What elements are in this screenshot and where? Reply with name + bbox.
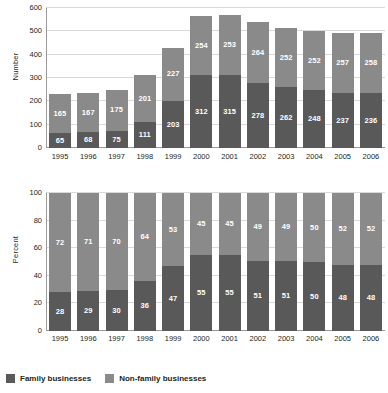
- percent-chart-segment-family: 29: [77, 291, 99, 331]
- number-chart-segment-value: 264: [251, 49, 264, 57]
- percent-chart-segment-value: 52: [338, 225, 347, 233]
- number-chart-segment-family: 236: [360, 93, 382, 148]
- percent-chart-segment-value: 51: [282, 292, 291, 300]
- number-chart-segment-family: 111: [134, 122, 156, 148]
- percent-chart-segment-value: 53: [169, 226, 178, 234]
- percent-chart-segment-nonfamily: 49: [275, 193, 297, 261]
- number-chart-segment-value: 227: [167, 70, 180, 78]
- percent-chart-segment-value: 45: [225, 220, 234, 228]
- percent-chart-segment-value: 49: [254, 223, 263, 231]
- percent-chart-bar-column: 7228: [49, 193, 71, 331]
- number-chart-x-tick-label: 2000: [190, 152, 212, 161]
- percent-chart-x-tick-label: 1995: [49, 334, 71, 343]
- number-chart-segment-nonfamily: 201: [134, 75, 156, 122]
- number-chart-y-tick-label: 100: [29, 119, 42, 128]
- legend-swatch-icon: [105, 374, 114, 383]
- percent-chart-segment-value: 29: [84, 307, 93, 315]
- number-chart-bar-column: 258236: [360, 8, 382, 148]
- number-chart-y-axis-title: Number: [2, 62, 16, 71]
- percent-chart-segment-family: 51: [247, 261, 269, 331]
- percent-chart-bar-column: 5248: [360, 193, 382, 331]
- number-chart-segment-value: 65: [56, 137, 65, 145]
- number-chart-segment-family: 75: [106, 131, 128, 149]
- number-chart-y-tick-label: 600: [29, 3, 42, 12]
- number-chart-bar-column: 16565: [49, 8, 71, 148]
- percent-chart-segment-nonfamily: 50: [303, 193, 325, 262]
- percent-chart-x-tick-label: 1998: [134, 334, 156, 343]
- number-chart-segment-value: 111: [139, 131, 151, 139]
- number-chart-segment-nonfamily: 252: [303, 31, 325, 90]
- percent-chart-segment-value: 70: [112, 238, 121, 246]
- percent-chart-segment-value: 28: [56, 308, 65, 316]
- chart-legend: Family businessesNon-family businesses: [6, 374, 206, 383]
- percent-chart-segment-value: 45: [197, 220, 206, 228]
- number-chart-segment-value: 237: [336, 117, 349, 125]
- number-chart-segment-value: 203: [167, 121, 180, 129]
- percent-chart-y-tick-label: 100: [29, 188, 42, 197]
- percent-chart-panel: Percent 020406080100 7228712970306436534…: [0, 185, 388, 360]
- number-chart-segment-value: 167: [82, 109, 95, 117]
- number-chart-x-tick-label: 1999: [162, 152, 184, 161]
- percent-chart-x-axis: 1995199619971998199920002001200220032004…: [46, 334, 385, 343]
- percent-chart-segment-family: 51: [275, 261, 297, 331]
- percent-chart-bar-column: 7030: [106, 193, 128, 331]
- percent-chart-segment-value: 71: [84, 238, 93, 246]
- number-chart-y-tick-label: 300: [29, 73, 42, 82]
- percent-chart-segment-nonfamily: 71: [77, 193, 99, 291]
- percent-chart-plot-area: 020406080100 722871297030643653474555455…: [46, 193, 385, 331]
- percent-chart-segment-family: 55: [219, 255, 241, 331]
- number-chart-x-tick-label: 1997: [106, 152, 128, 161]
- percent-chart-x-tick-label: 1999: [162, 334, 184, 343]
- percent-chart-x-tick-label: 2000: [190, 334, 212, 343]
- percent-chart-segment-value: 49: [282, 223, 291, 231]
- percent-chart-segment-family: 28: [49, 292, 71, 331]
- number-chart-y-tick-label: 400: [29, 49, 42, 58]
- number-chart-segment-value: 254: [195, 42, 208, 50]
- number-chart-x-tick-label: 1996: [77, 152, 99, 161]
- number-chart-segment-nonfamily: 175: [106, 90, 128, 131]
- number-chart-x-tick-label: 1995: [49, 152, 71, 161]
- percent-chart-bar-column: 5248: [332, 193, 354, 331]
- percent-chart-segment-value: 51: [254, 292, 263, 300]
- number-chart-y-tick-label: 500: [29, 26, 42, 35]
- percent-chart-bar-column: 5347: [162, 193, 184, 331]
- percent-chart-x-tick-label: 2002: [247, 334, 269, 343]
- percent-chart-x-tick-label: 1997: [106, 334, 128, 343]
- percent-chart-x-tick-label: 2001: [219, 334, 241, 343]
- percent-chart-segment-nonfamily: 52: [332, 193, 354, 265]
- percent-chart-y-axis-title: Percent: [2, 245, 16, 254]
- percent-chart-bar-column: 5050: [303, 193, 325, 331]
- legend-swatch-icon: [6, 374, 15, 383]
- number-chart-segment-family: 237: [332, 93, 354, 148]
- percent-chart-y-tick-label: 40: [34, 270, 42, 279]
- percent-chart-segment-family: 48: [332, 265, 354, 331]
- number-chart-bars: 1656516768175752011112272032543122533152…: [46, 8, 385, 148]
- percent-chart-segment-value: 48: [367, 294, 376, 302]
- percent-chart-segment-value: 72: [56, 239, 65, 247]
- percent-chart-y-tick-label: 60: [34, 243, 42, 252]
- percent-chart-segment-value: 55: [225, 289, 234, 297]
- percent-chart-segment-family: 55: [190, 255, 212, 331]
- percent-chart-segment-value: 30: [112, 307, 121, 315]
- percent-chart-segment-value: 50: [310, 293, 319, 301]
- percent-chart-segment-family: 47: [162, 266, 184, 331]
- number-chart-segment-value: 165: [54, 110, 67, 118]
- number-chart-bar-column: 254312: [190, 8, 212, 148]
- percent-chart-segment-nonfamily: 53: [162, 193, 184, 266]
- percent-chart-segment-family: 50: [303, 262, 325, 331]
- number-chart-segment-nonfamily: 253: [219, 15, 241, 74]
- number-chart-segment-value: 252: [280, 54, 293, 62]
- number-chart-segment-value: 175: [110, 106, 123, 114]
- number-chart-bar-column: 252262: [275, 8, 297, 148]
- percent-chart-segment-value: 50: [310, 224, 319, 232]
- percent-chart-segment-value: 47: [169, 295, 178, 303]
- percent-chart-x-tick-label: 2004: [303, 334, 325, 343]
- percent-chart-x-tick-label: 1996: [77, 334, 99, 343]
- number-chart-segment-nonfamily: 258: [360, 33, 382, 93]
- percent-chart-segment-family: 30: [106, 290, 128, 331]
- number-chart-x-tick-label: 2001: [219, 152, 241, 161]
- percent-chart-bar-column: 4951: [275, 193, 297, 331]
- percent-chart-x-tick-label: 2006: [360, 334, 382, 343]
- percent-chart-segment-value: 48: [338, 294, 347, 302]
- number-chart-segment-value: 257: [336, 59, 349, 67]
